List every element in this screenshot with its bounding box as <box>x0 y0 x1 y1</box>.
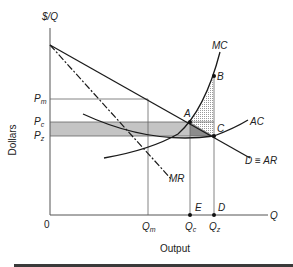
point-a <box>188 120 192 124</box>
demand-label: D ≡ AR <box>245 155 277 166</box>
x-end-label: Q <box>270 210 278 221</box>
mc-label: MC <box>212 40 228 51</box>
qm-label: Qm <box>142 221 156 233</box>
pc-label: Pc <box>34 116 45 128</box>
point-e-label: E <box>195 202 202 213</box>
qc-label: Qc <box>185 221 197 233</box>
y-axis-title: Dollars <box>7 124 18 155</box>
demand-curve <box>50 45 250 158</box>
mr-label: MR <box>169 173 185 184</box>
chart: $/Q Dollars Output 0 Q Pm Pc Pz Qm Qc Qz… <box>0 0 293 267</box>
point-e <box>188 213 192 217</box>
pz-label: Pz <box>34 130 45 142</box>
point-d-label: D <box>218 202 225 213</box>
point-c-label: C <box>217 123 225 134</box>
mr-curve <box>50 45 172 180</box>
qz-label: Qz <box>209 221 221 233</box>
point-c <box>212 134 216 138</box>
ac-label: AC <box>249 116 265 127</box>
point-b <box>212 74 216 78</box>
origin-label: 0 <box>44 219 50 230</box>
point-d <box>212 213 216 217</box>
pm-label: Pm <box>34 93 47 105</box>
point-b-label: B <box>217 71 224 82</box>
x-axis-title: Output <box>160 243 190 254</box>
point-a-label: A <box>183 108 191 119</box>
y-unit-label: $/Q <box>41 11 58 22</box>
